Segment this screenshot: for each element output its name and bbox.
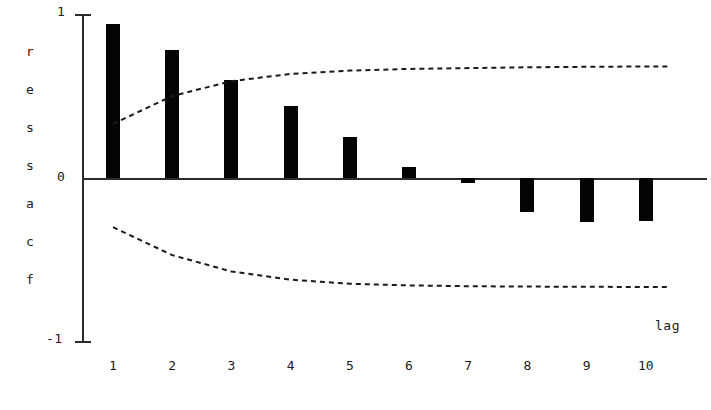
y-axis-tick-bottom xyxy=(75,341,91,343)
x-tick-label: 10 xyxy=(634,358,658,373)
x-tick-label: 8 xyxy=(515,358,539,373)
y-axis-label-char: e xyxy=(26,70,34,108)
acf-bar xyxy=(580,178,594,222)
acf-bar xyxy=(343,137,357,178)
x-axis-label-lag: lag xyxy=(655,318,680,333)
x-tick-label: 9 xyxy=(575,358,599,373)
y-axis-label-char: s xyxy=(26,146,34,184)
y-axis-label-char: s xyxy=(26,108,34,146)
lower-confidence-band xyxy=(113,227,668,287)
y-axis-label-char: f xyxy=(26,260,34,298)
y-axis-label: r e s s a c f xyxy=(22,32,38,298)
upper-confidence-band xyxy=(113,67,668,124)
acf-bar xyxy=(284,106,298,178)
plot-area xyxy=(0,0,711,410)
acf-bar xyxy=(165,50,179,178)
y-tick-label-1: 1 xyxy=(57,4,65,19)
x-tick-label: 3 xyxy=(219,358,243,373)
y-tick-label-neg1: -1 xyxy=(46,331,63,346)
acf-bar xyxy=(520,178,534,212)
y-axis-label-char: c xyxy=(26,222,34,260)
x-tick-label: 7 xyxy=(456,358,480,373)
y-axis-tick-top xyxy=(75,14,91,16)
y-axis-label-char: a xyxy=(26,184,34,222)
x-tick-label: 6 xyxy=(397,358,421,373)
acf-bar xyxy=(224,80,238,178)
acf-bar xyxy=(402,167,416,178)
acf-chart-screen: r e s s a c f 1 0 -1 12345678910 lag xyxy=(0,0,711,410)
y-tick-label-0: 0 xyxy=(57,169,65,184)
x-tick-label: 4 xyxy=(279,358,303,373)
confidence-bands xyxy=(0,0,711,410)
x-tick-label: 2 xyxy=(160,358,184,373)
x-tick-label: 5 xyxy=(338,358,362,373)
y-axis-label-char: r xyxy=(26,32,34,70)
x-tick-label: 1 xyxy=(101,358,125,373)
acf-bar xyxy=(106,24,120,178)
acf-bar xyxy=(639,178,653,221)
x-axis-zero-line xyxy=(82,178,707,180)
